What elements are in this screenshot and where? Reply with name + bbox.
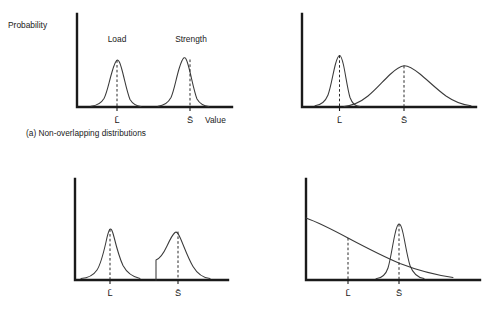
panel-d: L̄ S̄ (d) Overlapping distributions: wid… <box>248 165 496 329</box>
panel-b-strength-curve <box>344 66 471 107</box>
panel-a-strength-curve <box>158 58 209 107</box>
panel-d-strength-curve <box>376 224 424 279</box>
panel-a-axes <box>77 14 232 107</box>
panel-a-load-curve <box>91 60 141 106</box>
panel-b-axes <box>302 14 476 107</box>
panel-c-tick-label-load: L̄ <box>107 288 112 298</box>
panel-c-axes <box>75 179 228 280</box>
panel-b-tick-label-strength: S̄ <box>401 115 407 125</box>
x-axis-title: Value <box>205 115 226 125</box>
panel-b-load-curve <box>315 55 360 106</box>
panel-a-load-label: Load <box>108 34 127 44</box>
panel-a-tick-label-load: L̄ <box>114 115 119 125</box>
figure-load-strength-distributions: Probability Load Strength L̄ S̄ Value (a… <box>0 0 496 329</box>
panel-c-tick-label-strength: S̄ <box>175 288 181 298</box>
panel-b-tick-label-load: L̄ <box>337 115 342 125</box>
panel-c-strength-curve <box>156 232 210 280</box>
panel-d-tick-label-strength: S̄ <box>396 288 402 298</box>
panel-d-tick-label-load: L̄ <box>345 288 350 298</box>
panel-b: L̄ S̄ (b) Overlapping distributions: wid… <box>248 0 496 165</box>
panel-a: Probability Load Strength L̄ S̄ Value (a… <box>0 0 248 165</box>
panel-a-strength-label: Strength <box>175 34 207 44</box>
panel-a-caption: (a) Non-overlapping distributions <box>26 128 146 139</box>
y-axis-title: Probability <box>8 20 48 30</box>
panel-d-load-curve <box>306 218 453 278</box>
panel-a-tick-label-strength: S̄ <box>187 115 193 125</box>
panel-c: L̄ S̄ (c) Curtailed strength distributio… <box>0 165 248 329</box>
